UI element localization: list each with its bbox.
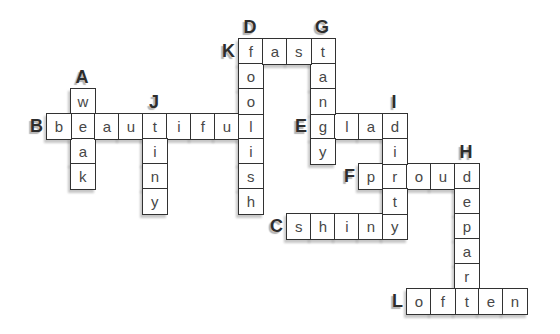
letter-cell-a: a bbox=[70, 138, 96, 165]
letter-cell-a: a bbox=[310, 63, 336, 90]
letter-cell-h: h bbox=[310, 213, 336, 240]
letter-cell-f: f bbox=[430, 288, 456, 315]
letter-cell-y: y bbox=[382, 213, 408, 240]
word-label-J: J bbox=[142, 88, 166, 113]
letter-cell-a: a bbox=[262, 38, 288, 65]
letter-cell-i: i bbox=[166, 113, 192, 140]
letter-cell-r: r bbox=[382, 163, 408, 190]
letter-cell-o: o bbox=[406, 288, 432, 315]
word-label-H: H bbox=[454, 138, 478, 163]
letter-cell-k: k bbox=[70, 163, 96, 190]
letter-cell-e: e bbox=[70, 113, 96, 140]
word-label-G: G bbox=[310, 13, 334, 38]
letter-cell-o: o bbox=[406, 163, 432, 190]
word-label-C: C bbox=[262, 213, 286, 238]
letter-cell-n: n bbox=[142, 163, 168, 190]
letter-cell-a: a bbox=[358, 113, 384, 140]
letter-cell-t: t bbox=[382, 188, 408, 215]
letter-cell-r: r bbox=[454, 263, 480, 290]
letter-cell-t: t bbox=[310, 38, 336, 65]
letter-cell-y: y bbox=[142, 188, 168, 215]
letter-cell-s: s bbox=[286, 38, 312, 65]
word-label-I: I bbox=[382, 88, 406, 113]
letter-cell-e: e bbox=[478, 288, 504, 315]
letter-cell-i: i bbox=[382, 138, 408, 165]
word-label-A: A bbox=[70, 63, 94, 88]
letter-cell-p: p bbox=[358, 163, 384, 190]
word-label-K: K bbox=[214, 38, 238, 63]
word-label-L: L bbox=[382, 288, 406, 313]
letter-cell-d: d bbox=[454, 163, 480, 190]
letter-cell-n: n bbox=[310, 88, 336, 115]
letter-cell-g: g bbox=[310, 113, 336, 140]
letter-cell-l: l bbox=[238, 113, 264, 140]
letter-cell-s: s bbox=[238, 163, 264, 190]
letter-cell-f: f bbox=[238, 38, 264, 65]
letter-cell-t: t bbox=[454, 288, 480, 315]
letter-cell-i: i bbox=[334, 213, 360, 240]
letter-cell-p: p bbox=[454, 213, 480, 240]
letter-cell-u: u bbox=[118, 113, 144, 140]
letter-cell-i: i bbox=[142, 138, 168, 165]
letter-cell-o: o bbox=[238, 88, 264, 115]
letter-cell-f: f bbox=[190, 113, 216, 140]
letter-cell-y: y bbox=[310, 138, 336, 165]
letter-cell-t: t bbox=[142, 113, 168, 140]
word-label-D: D bbox=[238, 13, 262, 38]
letter-cell-i: i bbox=[238, 138, 264, 165]
letter-cell-l: l bbox=[334, 113, 360, 140]
letter-cell-n: n bbox=[502, 288, 528, 315]
word-label-E: E bbox=[286, 113, 310, 138]
letter-cell-d: d bbox=[382, 113, 408, 140]
letter-cell-e: e bbox=[454, 188, 480, 215]
letter-cell-s: s bbox=[286, 213, 312, 240]
letter-cell-o: o bbox=[238, 63, 264, 90]
word-label-F: F bbox=[334, 163, 358, 188]
letter-cell-u: u bbox=[214, 113, 240, 140]
letter-cell-n: n bbox=[358, 213, 384, 240]
word-label-B: B bbox=[22, 113, 46, 138]
letter-cell-w: w bbox=[70, 88, 96, 115]
letter-cell-b: b bbox=[46, 113, 72, 140]
crossword-puzzle: weakbautifulshinyfooishgladproudtanyepar… bbox=[0, 0, 560, 334]
letter-cell-h: h bbox=[238, 188, 264, 215]
letter-cell-a: a bbox=[94, 113, 120, 140]
letter-cell-u: u bbox=[430, 163, 456, 190]
letter-cell-a: a bbox=[454, 238, 480, 265]
